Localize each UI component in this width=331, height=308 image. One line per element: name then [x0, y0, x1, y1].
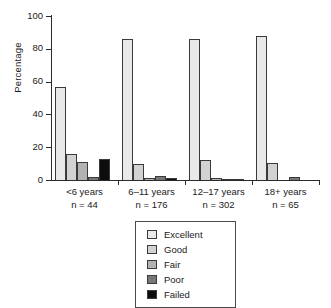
bar — [144, 178, 155, 180]
y-axis-tick: 40 — [46, 114, 51, 115]
plot-area: 020406080100 — [51, 16, 319, 180]
x-axis-separator-tick — [118, 180, 119, 185]
legend-swatch — [147, 245, 157, 254]
bar — [122, 39, 133, 180]
bar-group-bars — [122, 16, 177, 180]
x-axis-separator-tick — [252, 180, 253, 185]
bar — [133, 164, 144, 180]
bar-group-bars — [55, 16, 110, 180]
x-axis-end-tick — [319, 180, 320, 185]
bar-group-bars — [256, 16, 311, 180]
bar — [211, 178, 222, 180]
bar — [166, 178, 177, 180]
bar — [55, 87, 66, 180]
y-axis-tick: 20 — [46, 147, 51, 148]
bar — [155, 176, 166, 180]
x-axis-separator-tick — [185, 180, 186, 185]
bar — [99, 159, 110, 180]
legend: ExcellentGoodFairPoorFailed — [135, 221, 236, 308]
x-axis-group-label: 18+ yearsn = 65 — [246, 186, 325, 211]
legend-label: Fair — [164, 259, 180, 270]
legend-item: Good — [136, 242, 235, 257]
y-axis-tick: 100 — [46, 16, 51, 17]
legend-label: Failed — [164, 289, 190, 300]
legend-item: Failed — [136, 287, 235, 302]
legend-item: Excellent — [136, 227, 235, 242]
y-axis-tick-label: 100 — [27, 10, 43, 21]
bar — [88, 177, 99, 180]
bar — [189, 39, 200, 180]
bar — [233, 179, 244, 180]
legend-swatch — [147, 230, 157, 239]
y-axis-title: Percentage — [12, 13, 23, 123]
x-axis-group-count: n = 65 — [246, 199, 325, 212]
bar — [289, 177, 300, 180]
legend-item: Fair — [136, 257, 235, 272]
bar-group — [256, 16, 311, 180]
bar-group-bars — [189, 16, 244, 180]
legend-swatch — [147, 290, 157, 299]
y-axis-tick-label: 60 — [32, 75, 43, 86]
y-axis-tick-label: 80 — [32, 42, 43, 53]
x-axis-group-name: 18+ years — [246, 186, 325, 199]
y-axis-tick-label: 20 — [32, 141, 43, 152]
bar-group — [189, 16, 244, 180]
y-axis-line — [51, 15, 52, 181]
legend-label: Good — [164, 244, 187, 255]
bar — [267, 163, 278, 180]
bar — [66, 154, 77, 180]
y-axis-tick: 60 — [46, 82, 51, 83]
bar — [256, 36, 267, 180]
y-axis-tick: 80 — [46, 49, 51, 50]
legend-item: Poor — [136, 272, 235, 287]
legend-swatch — [147, 260, 157, 269]
bar — [77, 162, 88, 180]
legend-label: Poor — [164, 274, 184, 285]
bar — [222, 179, 233, 180]
bar-group — [55, 16, 110, 180]
y-axis-tick-label: 40 — [32, 108, 43, 119]
y-axis-tick-label: 0 — [38, 174, 43, 185]
y-axis-tick: 0 — [46, 180, 51, 181]
legend-swatch — [147, 275, 157, 284]
legend-label: Excellent — [164, 229, 203, 240]
bar-group — [122, 16, 177, 180]
bar — [200, 160, 211, 180]
